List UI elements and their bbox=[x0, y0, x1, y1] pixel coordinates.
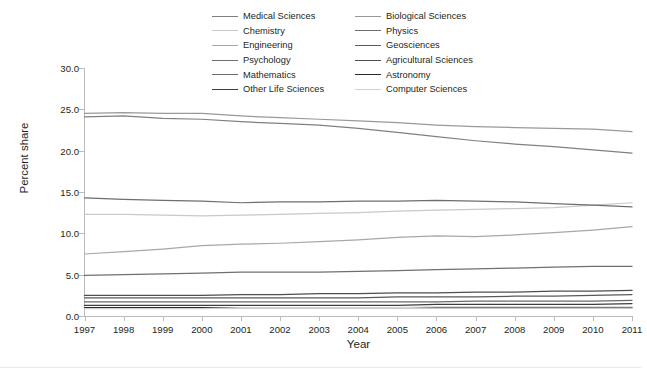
legend-item: Chemistry bbox=[212, 24, 355, 39]
y-tick-label: 25.0 bbox=[39, 104, 79, 115]
y-tick-mark bbox=[79, 68, 84, 69]
legend-item: Astronomy bbox=[355, 67, 542, 82]
x-tick-mark bbox=[554, 317, 555, 321]
legend-item-label: Agricultural Sciences bbox=[386, 55, 473, 65]
series-line bbox=[85, 116, 633, 153]
legend-line-swatch bbox=[355, 60, 381, 61]
legend-item: Biological Sciences bbox=[355, 9, 542, 24]
x-tick-mark bbox=[476, 317, 477, 321]
y-axis-title: Percent share bbox=[18, 88, 30, 228]
legend-line-swatch bbox=[355, 30, 381, 31]
legend-item-label: Mathematics bbox=[243, 70, 296, 80]
legend-item-label: Geosciences bbox=[386, 40, 440, 50]
y-tick-mark bbox=[79, 192, 84, 193]
legend-item: Computer Sciences bbox=[355, 82, 542, 97]
x-axis-title: Year bbox=[84, 337, 633, 350]
y-axis-line bbox=[84, 68, 85, 317]
x-tick-mark bbox=[202, 317, 203, 321]
series-line bbox=[85, 227, 633, 254]
legend-item-label: Astronomy bbox=[386, 70, 430, 80]
y-tick-label: 20.0 bbox=[39, 146, 79, 157]
series-line bbox=[85, 304, 633, 306]
legend-item-label: Medical Sciences bbox=[243, 11, 315, 21]
legend-line-swatch bbox=[212, 45, 238, 46]
legend-item: Agricultural Sciences bbox=[355, 53, 542, 68]
series-line bbox=[85, 290, 633, 295]
legend-line-swatch bbox=[212, 60, 238, 61]
y-tick-mark bbox=[79, 316, 84, 317]
series-line bbox=[85, 198, 633, 207]
legend-item-label: Chemistry bbox=[243, 26, 285, 36]
x-tick-mark bbox=[515, 317, 516, 321]
y-tick-label: 10.0 bbox=[39, 228, 79, 239]
legend-line-swatch bbox=[212, 16, 238, 17]
series-line bbox=[85, 203, 633, 216]
y-tick-label: 30.0 bbox=[39, 63, 79, 74]
series-line bbox=[85, 113, 633, 132]
y-tick-mark bbox=[79, 275, 84, 276]
figure-bottom-rule bbox=[0, 367, 641, 368]
legend-line-swatch bbox=[355, 16, 381, 17]
x-tick-mark bbox=[358, 317, 359, 321]
chart-legend: Medical SciencesBiological SciencesChemi… bbox=[212, 9, 542, 97]
legend-item-label: Other Life Sciences bbox=[243, 84, 324, 94]
y-tick-label: 0.0 bbox=[39, 311, 79, 322]
y-tick-label: 15.0 bbox=[39, 187, 79, 198]
legend-item-label: Psychology bbox=[243, 55, 291, 65]
legend-item-label: Engineering bbox=[243, 40, 293, 50]
x-tick-label: 2011 bbox=[609, 324, 647, 335]
x-tick-mark bbox=[124, 317, 125, 321]
series-line bbox=[85, 295, 633, 298]
series-line bbox=[85, 300, 633, 302]
y-tick-label: 5.0 bbox=[39, 270, 79, 281]
y-tick-mark bbox=[79, 109, 84, 110]
x-tick-mark bbox=[85, 317, 86, 321]
x-tick-mark bbox=[593, 317, 594, 321]
series-line bbox=[85, 266, 633, 275]
legend-item-label: Computer Sciences bbox=[386, 84, 467, 94]
legend-item: Physics bbox=[355, 24, 542, 39]
legend-line-swatch bbox=[355, 89, 381, 90]
x-tick-mark bbox=[632, 317, 633, 321]
y-tick-mark bbox=[79, 233, 84, 234]
legend-item: Medical Sciences bbox=[212, 9, 355, 24]
x-tick-mark bbox=[163, 317, 164, 321]
legend-item-label: Physics bbox=[386, 26, 418, 36]
legend-line-swatch bbox=[212, 30, 238, 31]
legend-item: Engineering bbox=[212, 38, 355, 53]
legend-item: Mathematics bbox=[212, 67, 355, 82]
series-line bbox=[85, 307, 633, 309]
legend-line-swatch bbox=[355, 74, 381, 75]
legend-line-swatch bbox=[355, 45, 381, 46]
x-tick-mark bbox=[319, 317, 320, 321]
legend-line-swatch bbox=[212, 74, 238, 75]
x-tick-mark bbox=[241, 317, 242, 321]
x-tick-mark bbox=[397, 317, 398, 321]
legend-item-label: Biological Sciences bbox=[386, 11, 466, 21]
legend-item: Other Life Sciences bbox=[212, 82, 355, 97]
legend-item: Geosciences bbox=[355, 38, 542, 53]
x-tick-mark bbox=[436, 317, 437, 321]
legend-item: Psychology bbox=[212, 53, 355, 68]
legend-line-swatch bbox=[212, 89, 238, 90]
y-tick-mark bbox=[79, 151, 84, 152]
x-tick-mark bbox=[280, 317, 281, 321]
